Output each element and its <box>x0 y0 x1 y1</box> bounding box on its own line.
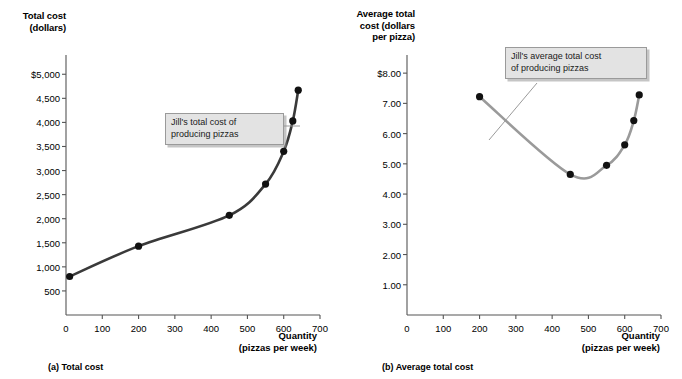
data-point-marker <box>295 87 302 94</box>
y-axis-tick-label: 1,000 <box>20 261 60 272</box>
x-axis-tick-label: 400 <box>203 323 219 334</box>
y-axis-tick-label: $8.00 <box>361 68 401 79</box>
data-point-marker <box>636 91 643 98</box>
y-axis-tick-label: 4.00 <box>361 189 401 200</box>
data-point-marker <box>226 212 233 219</box>
data-point-marker <box>567 171 574 178</box>
data-point-marker <box>66 273 73 280</box>
y-axis-tick-label: 500 <box>20 285 60 296</box>
x-axis-tick-label: 0 <box>404 323 409 334</box>
y-axis-tick-label: 4,500 <box>20 93 60 104</box>
y-axis-tick-label: 1,500 <box>20 237 60 248</box>
panel-caption-b: (b) Average total cost <box>382 362 473 372</box>
x-axis-tick-label: 100 <box>94 323 110 334</box>
x-axis-tick-label: 500 <box>239 323 255 334</box>
x-axis-tick-label: 100 <box>435 323 451 334</box>
y-axis-tick-label: 2,500 <box>20 189 60 200</box>
y-axis-tick-label: 2.00 <box>361 249 401 260</box>
x-axis-tick-label: 700 <box>312 323 328 334</box>
x-axis-tick-label: 600 <box>276 323 292 334</box>
data-point-marker <box>135 243 142 250</box>
data-curve <box>480 95 640 179</box>
x-axis-tick-label: 200 <box>472 323 488 334</box>
y-axis-tick-label: 7.00 <box>361 98 401 109</box>
panel-caption-a: (a) Total cost <box>48 362 103 372</box>
panel-average-total-cost: Average total cost (dollars per pizza) Q… <box>341 0 682 379</box>
x-axis-tick-label: 200 <box>131 323 147 334</box>
x-axis-tick-label: 500 <box>580 323 596 334</box>
x-axis-tick-label: 400 <box>544 323 560 334</box>
x-axis-tick-label: 300 <box>508 323 524 334</box>
x-axis-tick-label: 700 <box>653 323 669 334</box>
y-axis-tick-label: 1.00 <box>361 279 401 290</box>
data-point-marker <box>630 117 637 124</box>
data-point-marker <box>262 180 269 187</box>
data-point-marker <box>603 162 610 169</box>
x-axis-tick-label: 600 <box>617 323 633 334</box>
y-axis-tick-label: 4,000 <box>20 117 60 128</box>
x-axis-title-average-total-cost: Quantity (pizzas per week) <box>543 330 660 353</box>
y-axis-tick-label: 3,000 <box>20 165 60 176</box>
x-axis-tick-label: 300 <box>167 323 183 334</box>
y-axis-tick-label: 3.00 <box>361 219 401 230</box>
y-axis-tick-label: $5,000 <box>20 69 60 80</box>
callout-total-cost: Jill's total cost of producing pizzas <box>165 113 284 145</box>
data-point-marker <box>289 117 296 124</box>
y-axis-tick-label: 6.00 <box>361 128 401 139</box>
data-point-marker <box>621 141 628 148</box>
y-axis-tick-label: 5.00 <box>361 158 401 169</box>
callout-average-total-cost: Jill's average total cost of producing p… <box>505 47 647 79</box>
y-axis-tick-label: 2,000 <box>20 213 60 224</box>
data-point-marker <box>476 93 483 100</box>
y-axis-tick-label: 3,500 <box>20 141 60 152</box>
x-axis-tick-label: 0 <box>63 323 68 334</box>
panel-total-cost: Total cost (dollars) Quantity (pizzas pe… <box>0 0 341 379</box>
data-point-marker <box>280 148 287 155</box>
